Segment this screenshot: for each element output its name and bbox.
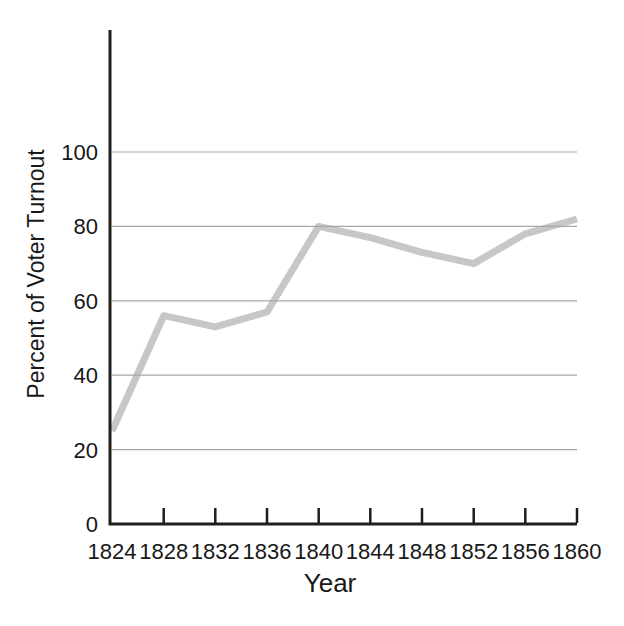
- x-axis-title: Year: [304, 568, 357, 598]
- x-tick-label-1832: 1832: [191, 539, 240, 564]
- y-tick-label-100: 100: [61, 140, 98, 165]
- y-tick-label-0: 0: [86, 512, 98, 537]
- x-tick-label-1840: 1840: [294, 539, 343, 564]
- x-tick-label-1828: 1828: [139, 539, 188, 564]
- y-tick-label-80: 80: [74, 214, 98, 239]
- x-tick-label-1844: 1844: [346, 539, 395, 564]
- line-chart: 1824182818321836184018441848185218561860…: [0, 0, 624, 626]
- x-tick-label-1852: 1852: [449, 539, 498, 564]
- tick-layer: [164, 508, 577, 523]
- x-tick-label-1848: 1848: [398, 539, 447, 564]
- voter-turnout-figure: 1824182818321836184018441848185218561860…: [0, 0, 624, 626]
- turnout-line: [112, 219, 577, 431]
- label-layer: 1824182818321836184018441848185218561860…: [61, 140, 601, 564]
- x-tick-label-1824: 1824: [88, 539, 137, 564]
- y-tick-label-40: 40: [74, 363, 98, 388]
- y-tick-label-20: 20: [74, 438, 98, 463]
- y-axis-title: Percent of Voter Turnout: [23, 149, 49, 399]
- series-layer: [112, 219, 577, 431]
- grid-layer: [112, 152, 577, 450]
- x-tick-label-1856: 1856: [501, 539, 550, 564]
- y-tick-label-60: 60: [74, 289, 98, 314]
- x-tick-label-1836: 1836: [243, 539, 292, 564]
- x-tick-label-1860: 1860: [553, 539, 602, 564]
